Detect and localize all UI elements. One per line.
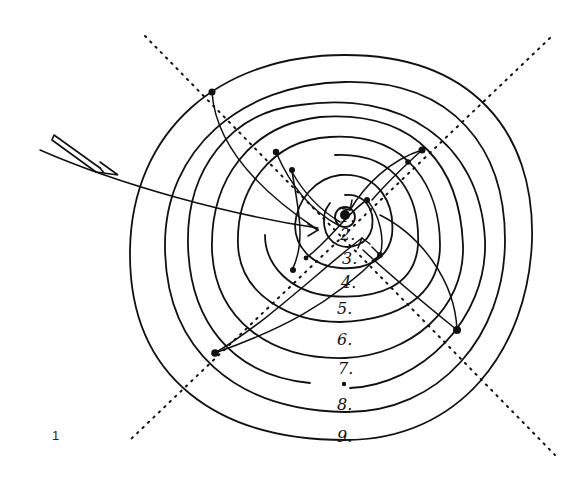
rings — [130, 55, 532, 440]
ring-label-6: 6. — [337, 330, 352, 349]
ring-9 — [130, 55, 532, 440]
dotted-axes — [130, 36, 555, 455]
ring-8 — [165, 82, 505, 412]
ring-label-9: 9. — [337, 427, 352, 446]
ring-label-2: 2. — [339, 225, 355, 244]
ring-5 — [238, 137, 440, 322]
ring-label-8: 8. — [337, 395, 352, 414]
ring-labels: 1. 2. 3. 4. 5. 6. 7. 8. 9. — [337, 207, 357, 446]
ring-label-3: 3. — [342, 249, 357, 268]
spiral-diagram: 1. 2. 3. 4. 5. 6. 7. 8. 9. — [0, 0, 571, 492]
ring-label-4: 4. — [340, 273, 356, 292]
path-curves — [40, 92, 457, 353]
ring-label-7: 7. — [338, 359, 353, 378]
incoming-arrow-icon — [52, 135, 118, 175]
figure-number: 1 — [52, 428, 59, 443]
ring-label-1: 1. — [340, 207, 355, 226]
ring-label-5: 5. — [337, 299, 352, 318]
